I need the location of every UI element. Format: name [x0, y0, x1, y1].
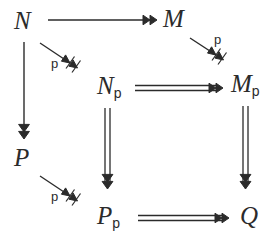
edge-N-to-P: [19, 42, 30, 139]
node-N-base: N: [14, 7, 31, 34]
node-P-base: P: [14, 144, 29, 171]
node-Np: Np: [97, 73, 121, 100]
edge-Pp-to-Q: [138, 213, 229, 223]
node-Mp: Mp: [231, 71, 260, 98]
edge-Mp-to-Q: [240, 106, 251, 189]
edge-N-to-M: [48, 15, 157, 25]
node-N: N: [14, 8, 31, 35]
node-Q: Q: [240, 203, 258, 230]
edge-label-M-to-Mp: p: [214, 33, 221, 46]
diagram-edges-layer: [0, 0, 279, 251]
edge-Np-to-Mp: [135, 83, 223, 93]
node-Mp-sub: p: [252, 83, 260, 99]
edge-label-N-to-Np: p: [51, 57, 58, 70]
node-Pp-sub: p: [112, 215, 120, 231]
edge-P-to-Pp: [40, 176, 81, 206]
node-Q-base: Q: [240, 202, 258, 229]
node-Pp-base: P: [97, 202, 112, 229]
node-Pp: Pp: [97, 203, 120, 230]
node-P: P: [14, 145, 29, 172]
edge-label-P-to-Pp: p: [51, 190, 58, 203]
node-Mp-base: M: [231, 70, 252, 97]
node-Np-sub: p: [114, 85, 122, 101]
node-M: M: [163, 6, 184, 33]
node-M-base: M: [163, 5, 184, 32]
node-Np-base: N: [97, 72, 114, 99]
edge-Np-to-Pp: [102, 108, 113, 189]
commutative-diagram: N M Np Mp P Pp Q p p p: [0, 0, 279, 251]
edge-N-to-Np: [40, 43, 81, 73]
